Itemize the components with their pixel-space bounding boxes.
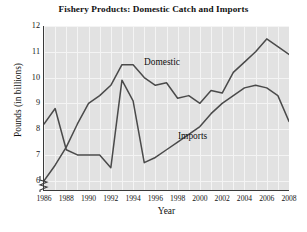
chart-figure: Fishery Products: Domestic Catch and Imp… — [0, 0, 307, 232]
series-canvas — [44, 26, 289, 191]
x-tick-label: 2008 — [276, 194, 302, 203]
chart-title: Fishery Products: Domestic Catch and Imp… — [0, 4, 307, 14]
plot-area — [44, 26, 289, 191]
series-line-domestic — [44, 80, 289, 168]
y-tick-label: 12 — [18, 22, 40, 30]
x-axis-line — [43, 190, 289, 191]
y-axis-line — [43, 26, 44, 191]
x-axis-title: Year — [44, 206, 289, 216]
y-axis-title: Pounds (in billions) — [13, 30, 23, 170]
series-label-domestic: Domestic — [144, 57, 180, 67]
series-label-imports: Imports — [178, 131, 207, 141]
axis-break-icon — [37, 176, 51, 192]
